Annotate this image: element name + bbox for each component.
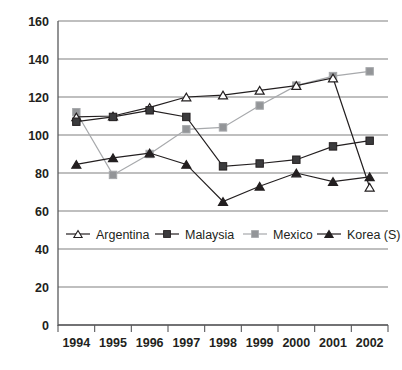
x-axis-tick-label: 1994: [62, 336, 90, 350]
series-line: [76, 110, 369, 166]
x-axis-tick-label: 1997: [172, 336, 200, 350]
y-axis-tick-label: 20: [35, 281, 49, 295]
y-axis-tick-label: 100: [28, 129, 49, 143]
chart-canvas: 020406080100120140160 199419951996199719…: [0, 0, 402, 370]
data-point-marker: [109, 113, 116, 120]
data-point-marker: [365, 183, 374, 191]
data-point-marker: [146, 107, 153, 114]
y-axis-tick-label: 0: [42, 319, 49, 333]
x-axis-tick-label: 1999: [246, 336, 274, 350]
y-axis-tick-label: 160: [28, 15, 49, 29]
x-axis-tick-label: 2002: [356, 336, 384, 350]
x-axis-tick-label: 2000: [282, 336, 310, 350]
data-point-marker: [183, 126, 190, 133]
data-point-marker: [219, 124, 226, 131]
legend-marker-swatch: [252, 231, 259, 238]
x-axis-tick-label: 1996: [136, 336, 164, 350]
data-point-marker: [293, 156, 300, 163]
legend-label: Argentina: [96, 228, 150, 242]
data-point-marker: [366, 137, 373, 144]
y-axis-tick-label: 140: [28, 53, 49, 67]
legend-label: Malaysia: [185, 228, 234, 242]
data-point-marker: [109, 171, 116, 178]
series-malaysia: [73, 107, 374, 170]
data-point-marker: [255, 183, 264, 191]
legend-marker-swatch: [164, 231, 171, 238]
data-point-marker: [73, 118, 80, 125]
legend-label: Korea (S): [347, 228, 401, 242]
data-series-layer: [72, 68, 374, 206]
legend-item-mexico[interactable]: Mexico: [243, 228, 313, 242]
x-axis-tick-labels: 199419951996199719981999200020012002: [62, 336, 383, 350]
legend-item-korea-s[interactable]: Korea (S): [317, 228, 401, 242]
chart-legend: ArgentinaMalaysiaMexicoKorea (S): [66, 228, 401, 242]
data-point-marker: [329, 143, 336, 150]
legend-label: Mexico: [273, 228, 313, 242]
line-chart: 020406080100120140160 199419951996199719…: [0, 0, 402, 370]
data-point-marker: [256, 160, 263, 167]
x-axis-tick-label: 2001: [319, 336, 347, 350]
data-point-marker: [183, 113, 190, 120]
x-axis-tick-marks: [58, 325, 388, 332]
x-axis-tick-label: 1995: [99, 336, 127, 350]
gridlines: [58, 21, 388, 325]
y-axis-tick-label: 60: [35, 205, 49, 219]
data-point-marker: [182, 161, 191, 169]
legend-item-argentina[interactable]: Argentina: [66, 228, 150, 242]
data-point-marker: [366, 68, 373, 75]
y-axis-tick-labels: 020406080100120140160: [28, 15, 49, 333]
x-axis-tick-label: 1998: [209, 336, 237, 350]
legend-item-malaysia[interactable]: Malaysia: [155, 228, 234, 242]
data-point-marker: [219, 163, 226, 170]
series-line: [76, 71, 369, 175]
y-axis-tick-label: 120: [28, 91, 49, 105]
y-axis-tick-label: 40: [35, 243, 49, 257]
data-point-marker: [256, 102, 263, 109]
series-line: [76, 153, 369, 201]
y-axis-tick-label: 80: [35, 167, 49, 181]
